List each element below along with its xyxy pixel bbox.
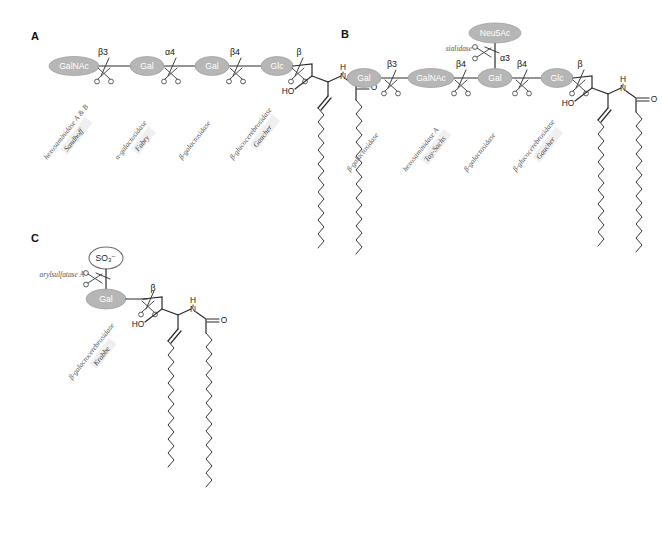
amide-n-label: N — [190, 304, 196, 314]
sugar-label: Glc — [271, 61, 285, 71]
sugar-glc-b: Glc — [541, 69, 573, 88]
sugar-label: Gal — [488, 73, 501, 83]
scissors-icon-a-1 — [95, 68, 114, 84]
ceramide-a: HO N H O — [282, 62, 378, 254]
sphingosine-tail-a — [318, 108, 324, 248]
sugar-gal-c: Gal — [86, 289, 126, 309]
enzyme-label-arylsulfatase: arylsulfatase A — [40, 270, 85, 279]
enzyme-label: β-galactocerebrosidase — [66, 321, 117, 382]
sugar-label: Gal — [140, 61, 153, 71]
cleavage-tick-b-1 — [388, 70, 396, 88]
disease-label: Gaucher — [251, 123, 274, 149]
sugar-galnac-b: GalNAc — [408, 69, 454, 88]
cleavage-tick-a-2 — [168, 58, 176, 76]
enzyme-label: β-glucocerebrosidase — [510, 117, 557, 174]
linkage-label-a-1: β3 — [98, 47, 108, 57]
panel-c: SO₃⁻ arylsulfatase A Gal β — [40, 247, 228, 487]
cleavage-tick-b-branch — [485, 47, 499, 53]
enzyme-label: β-galactosidase — [461, 130, 498, 174]
figure-canvas: GalNAc Gal Gal Glc β3 α4 β4 β — [0, 0, 662, 536]
cleavage-tick-c-sulfate — [96, 273, 110, 279]
panel-b: Gal GalNAc Gal Glc Neu5Ac β3 β4 β4 β α3 — [344, 23, 658, 252]
enzyme-label: β-glucocerebrosidase — [227, 105, 274, 162]
linkage-label-a-4: β — [296, 47, 301, 57]
cleavage-tick-b-3 — [519, 70, 527, 88]
amide-h-label: H — [620, 74, 626, 84]
enzyme-group-b-1: β-galactosidase — [344, 130, 381, 174]
sugar-gal-b-2: Gal — [478, 69, 512, 88]
enzyme-group-a-2: α-galactosidase Fabry — [112, 118, 157, 168]
fattyacid-tail-b — [636, 112, 642, 252]
sugar-neu5ac-b: Neu5Ac — [469, 23, 521, 43]
hydroxyl-label: HO — [282, 86, 295, 96]
scissors-icon-a-3 — [227, 68, 246, 84]
linkage-label-a-3: β4 — [230, 47, 240, 57]
enzyme-group-b-3: β-galactosidase — [461, 130, 498, 174]
disease-label: Sandhoff — [62, 126, 86, 153]
disease-label: Fabry — [132, 133, 151, 154]
panel-a: GalNAc Gal Gal Glc β3 α4 β4 β — [41, 47, 377, 254]
linkage-label-b-4: β — [577, 59, 582, 69]
amide-h-label: H — [190, 295, 196, 305]
carbonyl-o-label: O — [371, 82, 378, 92]
enzyme-label: β-galactosidase — [176, 118, 213, 162]
hydroxyl-label: HO — [562, 98, 575, 108]
sugar-gal-a-2: Gal — [195, 57, 229, 76]
fattyacid-tail-c — [206, 333, 212, 487]
disease-label: Gaucher — [534, 135, 557, 161]
cleavage-tick-a-1 — [101, 58, 109, 76]
enzyme-group-c-1: β-galactocerebrosidase Krabbe — [66, 321, 125, 389]
sugar-label: Neu5Ac — [480, 28, 511, 38]
panel-letter-b: B — [341, 28, 349, 40]
sugar-galnac-a: GalNAc — [49, 57, 99, 76]
enzyme-label: hexosaminidase A & B — [41, 102, 90, 161]
panel-letter-c: C — [31, 232, 39, 244]
amide-n-label: N — [620, 83, 626, 93]
enzyme-group-a-1: hexosaminidase A & B Sandhoff — [41, 102, 98, 168]
cleavage-tick-a-3 — [233, 58, 241, 76]
sulfate-group-c: SO₃⁻ arylsulfatase A — [40, 247, 123, 290]
sphingosine-tail-b — [598, 120, 604, 246]
sugar-label: Gal — [357, 73, 370, 83]
scissors-icon-a-4 — [289, 68, 308, 84]
fattyacid-tail-a — [356, 100, 362, 254]
enzyme-label-sialidase: sialidase — [446, 44, 473, 53]
enzyme-group-a-4: β-glucocerebrosidase Gaucher — [227, 105, 283, 169]
sugar-label: Gal — [205, 61, 218, 71]
panel-letter-a: A — [31, 30, 39, 42]
sphingosine-tail-c — [168, 341, 174, 467]
scissors-icon-c-sulfatase — [84, 271, 102, 287]
sugar-label: GalNAc — [416, 73, 446, 83]
hydroxyl-label: HO — [132, 319, 145, 329]
linkage-label-b-branch: α3 — [500, 53, 510, 63]
amide-n-label: N — [340, 71, 346, 81]
ceramide-c: HO N H O — [132, 295, 228, 487]
cleavage-tick-a-4 — [295, 58, 303, 76]
scissors-icon-b-1 — [382, 80, 401, 96]
linkage-label-c-1: β — [150, 283, 155, 293]
ceramide-b: HO N H O — [562, 74, 658, 252]
sugar-label: Gal — [99, 294, 112, 304]
scissors-icon-b-4 — [570, 80, 589, 96]
sugar-gal-a-1: Gal — [130, 57, 164, 76]
cleavage-tick-c-1 — [146, 291, 154, 309]
disease-label: Krabbe — [91, 344, 113, 368]
linkage-label-b-2: β4 — [456, 59, 466, 69]
sugar-label: Glc — [551, 73, 565, 83]
sugar-gal-b-1: Gal — [347, 69, 381, 88]
sugar-glc-a: Glc — [261, 57, 293, 76]
scissors-icon-a-2 — [162, 68, 181, 84]
enzyme-group-b-2: hexosaminidase A Tay-Sachs — [400, 123, 451, 180]
disease-label: Tay-Sachs — [422, 134, 448, 163]
enzyme-label: α-galactosidase — [112, 118, 148, 161]
sugar-label: GalNAc — [59, 61, 89, 71]
carbonyl-o-label: O — [221, 315, 228, 325]
scissors-icon-c-1 — [139, 301, 158, 317]
enzyme-group-a-3: β-galactosidase — [176, 118, 213, 162]
enzyme-label: hexosaminidase A — [400, 125, 440, 173]
scissors-icon-b-3 — [513, 80, 532, 96]
scissors-icon-b-2 — [452, 80, 471, 96]
cleavage-tick-b-2 — [458, 70, 466, 88]
sulfate-label: SO₃⁻ — [96, 253, 117, 263]
linkage-label-b-1: β3 — [387, 59, 397, 69]
